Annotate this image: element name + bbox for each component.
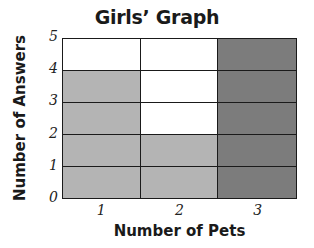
x-axis-label: Number of Pets: [62, 222, 297, 240]
bar-column-2: [141, 39, 219, 198]
y-tick-5: 5: [46, 29, 58, 43]
empty-cell: [141, 102, 218, 134]
shaded-cell: [218, 134, 296, 166]
shaded-cell: [218, 166, 296, 198]
chart-title: Girls’ Graph: [0, 6, 314, 28]
shaded-cell: [218, 102, 296, 134]
y-tick-1: 1: [46, 158, 58, 172]
y-tick-4: 4: [46, 61, 58, 75]
shaded-cell: [218, 39, 296, 70]
empty-cell: [141, 39, 218, 70]
shaded-cell: [141, 134, 218, 166]
empty-cell: [63, 39, 140, 70]
x-tick-3: 3: [219, 202, 297, 218]
bar-column-3: [218, 39, 296, 198]
shaded-cell: [63, 134, 140, 166]
shaded-cell: [218, 70, 296, 102]
bar-column-1: [63, 39, 141, 198]
shaded-cell: [63, 166, 140, 198]
x-tick-1: 1: [62, 202, 140, 218]
shaded-cell: [63, 70, 140, 102]
y-axis-label: Number of Answers: [11, 35, 29, 201]
y-tick-3: 3: [46, 93, 58, 107]
empty-cell: [141, 70, 218, 102]
bar-grid: [62, 38, 297, 199]
shaded-cell: [63, 102, 140, 134]
y-tick-0: 0: [46, 190, 58, 204]
y-tick-2: 2: [46, 126, 58, 140]
shaded-cell: [141, 166, 218, 198]
x-tick-2: 2: [140, 202, 218, 218]
